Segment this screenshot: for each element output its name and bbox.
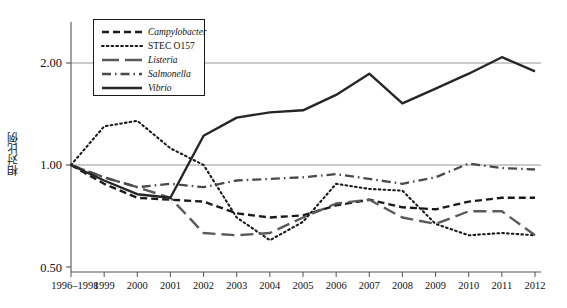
legend-label-campylobacter: Campylobacter	[148, 27, 207, 37]
legend-swatch-stec-o157	[100, 40, 144, 52]
x-tick-label: 2012	[525, 280, 546, 291]
chart-legend: Campylobacter STEC O157 Listeria Salmone…	[93, 19, 205, 96]
legend-label-salmonella: Salmonella	[148, 69, 191, 79]
series-line-listeria	[71, 165, 535, 235]
legend-swatch-vibrio	[100, 82, 144, 94]
x-tick-label: 2003	[226, 280, 247, 291]
legend-item-vibrio: Vibrio	[94, 81, 204, 95]
legend-label-listeria: Listeria	[148, 55, 178, 65]
legend-item-salmonella: Salmonella	[94, 67, 204, 81]
x-tick-label: 2004	[259, 280, 280, 291]
x-tick-label: 2009	[425, 280, 446, 291]
series-line-salmonella	[71, 164, 535, 188]
legend-label-vibrio: Vibrio	[148, 83, 172, 93]
x-tick-label: 2011	[492, 280, 513, 291]
chart-container: 相对比例 2.00 1.00 0.50 1996–199819992000200…	[0, 0, 567, 308]
x-tick-label: 2010	[458, 280, 479, 291]
y-tick-label-1: 1.00	[18, 158, 62, 173]
y-tick-label-2: 2.00	[18, 56, 62, 71]
x-axis-ticks	[71, 272, 535, 277]
x-tick-label: 2008	[392, 280, 413, 291]
legend-item-campylobacter: Campylobacter	[94, 25, 204, 39]
x-tick-label: 2005	[293, 280, 314, 291]
legend-swatch-listeria	[100, 54, 144, 66]
y-tick-label-0: 0.50	[18, 261, 62, 276]
x-tick-label: 2001	[160, 280, 181, 291]
legend-item-listeria: Listeria	[94, 53, 204, 67]
legend-item-stec-o157: STEC O157	[94, 39, 204, 53]
series-line-stec-o157	[71, 121, 535, 240]
legend-swatch-campylobacter	[100, 26, 144, 38]
x-tick-label: 2006	[326, 280, 347, 291]
x-tick-label: 2007	[359, 280, 380, 291]
x-tick-label: 1996–1998	[51, 280, 98, 291]
x-tick-label: 2000	[127, 280, 148, 291]
series-line-campylobacter	[71, 165, 535, 218]
legend-label-stec-o157: STEC O157	[148, 41, 195, 51]
plot-area	[0, 0, 567, 308]
legend-swatch-salmonella	[100, 68, 144, 80]
x-tick-label: 1999	[94, 280, 115, 291]
x-tick-label: 2002	[193, 280, 214, 291]
